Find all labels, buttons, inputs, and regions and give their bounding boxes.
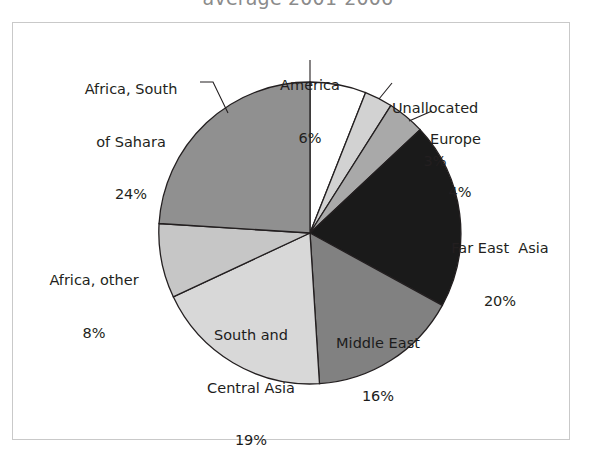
slice-label-america: America 6% bbox=[255, 42, 365, 182]
slice-label-africa-other: Africa, other 8% bbox=[24, 237, 164, 377]
slice-label-south-central-line2: Central Asia bbox=[186, 380, 316, 398]
slice-label-america-text: America bbox=[255, 77, 365, 95]
slice-label-south-and-central-asia: South and Central Asia 19% bbox=[186, 292, 316, 449]
slice-label-africa-south-line1: Africa, South bbox=[46, 81, 216, 99]
leader-line-unallocated bbox=[379, 83, 392, 99]
slice-label-africa-south-of-sahara: Africa, South of Sahara 24% bbox=[46, 46, 216, 239]
slice-label-far-east-asia: Far East Asia 20% bbox=[425, 205, 575, 345]
slice-value-middle-east: 16% bbox=[318, 388, 438, 406]
slice-label-europe-text: Europe bbox=[430, 131, 550, 149]
slice-label-middle-east-text: Middle East bbox=[318, 335, 438, 353]
slice-value-africa-south: 24% bbox=[46, 186, 216, 204]
slice-label-middle-east: Middle East 16% bbox=[318, 300, 438, 440]
slice-label-far-east-asia-text: Far East Asia bbox=[425, 240, 575, 258]
slice-value-europe: 4% bbox=[430, 184, 490, 202]
slice-value-south-central: 19% bbox=[186, 432, 316, 449]
slice-label-africa-other-text: Africa, other bbox=[24, 272, 164, 290]
slice-value-africa-other: 8% bbox=[24, 325, 164, 343]
slice-value-america: 6% bbox=[255, 130, 365, 148]
slice-label-south-central-line1: South and bbox=[186, 327, 316, 345]
slice-value-far-east-asia: 20% bbox=[425, 293, 575, 311]
slice-label-africa-south-line2: of Sahara bbox=[46, 134, 216, 152]
